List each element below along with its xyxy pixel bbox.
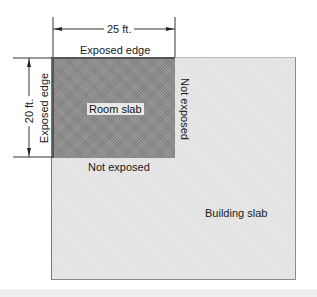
left-edge-label: Exposed edge xyxy=(38,73,50,143)
top-edge-label: Exposed edge xyxy=(80,44,150,56)
width-dimension-label: 25 ft. xyxy=(104,23,134,35)
bottom-edge-label: Not exposed xyxy=(88,161,150,173)
height-dimension-label: 20 ft. xyxy=(23,96,35,126)
arrow-left-icon xyxy=(54,27,62,31)
right-edge-label: Not exposed xyxy=(179,78,191,140)
arrow-down-icon xyxy=(27,148,31,156)
building-slab-label: Building slab xyxy=(205,207,267,219)
arrow-up-icon xyxy=(27,59,31,67)
dimension-lines xyxy=(0,0,317,297)
bottom-strip xyxy=(0,289,317,297)
arrow-right-icon xyxy=(166,27,174,31)
room-slab-label: Room slab xyxy=(87,103,144,115)
